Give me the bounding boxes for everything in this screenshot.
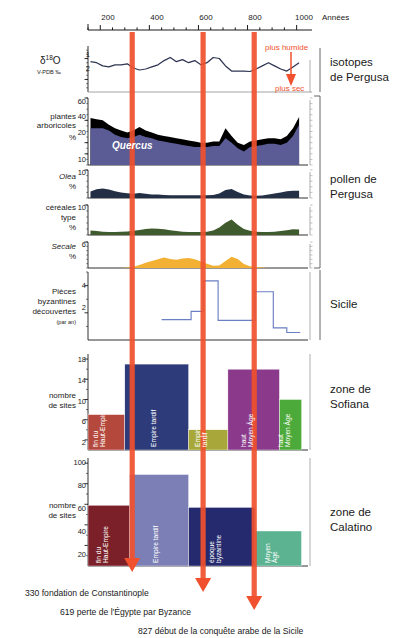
olea-tick-10: 10: [70, 168, 86, 177]
bar-label-line2: Moyen Âge: [283, 414, 290, 447]
group-label-pollen-line2: Pergusa: [330, 187, 373, 201]
group-label-sicile: Sicile: [330, 297, 357, 311]
bar-label-line2: tardif: [201, 426, 208, 447]
group-label-pollen-line1: pollen de: [330, 172, 377, 186]
group-label-calatino-line2: Calatino: [330, 520, 372, 534]
bar-label-line2: Haut-Empire: [102, 526, 109, 563]
bar-label-line1: Empire tardif: [150, 410, 157, 447]
cereales-y-label-line1: céréales: [26, 204, 76, 213]
sofiana-tick-10: 10: [66, 397, 86, 406]
secale-y-units: %: [52, 253, 76, 262]
event-caption-827: 827 début de la conquête arabe de la Sic…: [138, 626, 303, 636]
x-tick-200: 200: [94, 14, 122, 23]
group-label-isotopes-line1: isotopes: [330, 55, 373, 69]
bar-label-calatino-2: époquebyzantine: [215, 535, 229, 563]
calatino-y-label-line2: de sites: [26, 512, 76, 521]
quercus-inner-label: Quercus: [112, 140, 153, 151]
coins-tick-4: 4: [70, 281, 86, 290]
bar-label-calatino-1: Empire tardif: [156, 526, 163, 563]
group-label-sofiana-line1: zone de: [330, 382, 371, 396]
bar-label-line1: Empire tardif: [152, 526, 159, 563]
group-label-sofiana-line2: Sofiana: [330, 397, 369, 411]
calatino-tick-100: 100: [62, 458, 86, 467]
bar-label-line2: byzantine: [215, 535, 222, 563]
group-label-isotopes-line2: de Pergusa: [330, 70, 389, 84]
ap-tick-20: 20: [70, 128, 86, 137]
bar-label-calatino-0: fin duHaut-Empire: [102, 526, 116, 563]
sofiana-tick-14: 14: [66, 376, 86, 385]
bar-label-calatino-3: MoyenÂge: [271, 543, 285, 563]
oxygen-symbol: O: [53, 55, 61, 66]
x-tick-800: 800: [241, 14, 269, 23]
coins-y-label-line1: Pièces: [26, 288, 76, 297]
sofiana-tick-2: 2: [66, 438, 86, 447]
bar-label-line2: Moyen Âge: [247, 414, 254, 447]
coins-y-label-line3: découvertes: [18, 308, 76, 317]
bar-label-sofiana-0: fin duHaut-Empire: [99, 410, 113, 447]
bar-label-sofiana-1: Empire tardif: [153, 410, 160, 447]
isotope-tick-1: 1: [78, 50, 90, 59]
bar-label-line1: fin du: [95, 526, 102, 563]
isotope-y-units: V-PDB ‰: [37, 69, 61, 75]
calatino-tick-20: 20: [62, 550, 86, 559]
figure-root: 200 400 600 800 1000 Années δ18O V-PDB ‰…: [0, 0, 406, 638]
annotation-plus-humide: plus humide: [265, 44, 308, 53]
calatino-tick-40: 40: [62, 527, 86, 536]
ap-tick-40: 40: [70, 112, 86, 121]
coins-y-label-line4: (par an): [30, 319, 76, 325]
ap-tick-10: 10: [70, 155, 86, 164]
bar-label-line1: haut: [239, 414, 246, 447]
bar-label-sofiana-4: hautMoyen Âge: [283, 414, 297, 447]
delta-exponent: 18: [46, 54, 53, 61]
bar-label-line1: époque: [208, 535, 215, 563]
olea-y-units: %: [52, 183, 76, 192]
cereales-tick-10: 10: [70, 203, 86, 212]
calatino-tick-80: 80: [62, 481, 86, 490]
ap-y-label-line2: arboricoles: [22, 122, 76, 131]
event-marker-827: [252, 32, 257, 598]
cereales-y-units: %: [52, 224, 76, 233]
ap-tick-60: 60: [70, 97, 86, 106]
x-tick-600: 600: [192, 14, 220, 23]
x-tick-1000: 1000: [290, 14, 318, 23]
bar-label-line2: Haut-Empire: [99, 410, 106, 447]
bar-label-line1: haut: [276, 414, 283, 447]
bar-label-line2: Âge: [271, 543, 278, 563]
group-label-calatino-line1: zone de: [330, 505, 371, 519]
secale-tick-6: 6: [70, 240, 86, 249]
event-marker-330: [130, 32, 135, 560]
coins-y-label-line2: byzantines: [20, 298, 76, 307]
sofiana-tick-6: 6: [66, 417, 86, 426]
isotope-tick-2: 2: [78, 64, 90, 73]
event-caption-619: 619 perte de l'Égypte par Byzance: [60, 607, 191, 617]
event-marker-619: [201, 32, 206, 580]
cereales-y-label-line2: type: [40, 214, 76, 223]
annotation-plus-sec: plus sec: [275, 85, 304, 94]
x-tick-400: 400: [143, 14, 171, 23]
coins-tick-2: 2: [70, 303, 86, 312]
event-caption-330: 330 fondation de Constantinople: [25, 588, 149, 598]
isotope-y-label: δ18O: [40, 54, 61, 66]
calatino-tick-60: 60: [62, 504, 86, 513]
bar-label-sofiana-2: Empiretardif: [201, 426, 215, 447]
x-axis-label: Années: [322, 14, 349, 23]
sofiana-tick-18: 18: [66, 355, 86, 364]
bar-label-sofiana-3: hautMoyen Âge: [247, 414, 261, 447]
